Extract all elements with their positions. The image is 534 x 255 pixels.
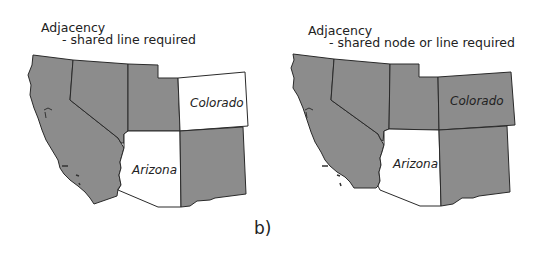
state-new-mexico <box>439 126 510 206</box>
state-utah <box>389 64 439 130</box>
states-map: Colorado Arizona <box>267 0 534 230</box>
label-colorado: Colorado <box>190 96 244 110</box>
label-colorado: Colorado <box>450 94 504 108</box>
label-arizona: Arizona <box>392 157 438 171</box>
state-utah <box>128 64 180 131</box>
states-map: Colorado Arizona <box>0 0 267 230</box>
panel-shared-node-or-line: Adjacency - shared node or line required… <box>267 0 534 230</box>
figure-caption: b) <box>254 218 271 238</box>
label-arizona: Arizona <box>131 163 177 177</box>
panel-shared-line: Adjacency - shared line required Colorad… <box>0 0 267 230</box>
state-new-mexico <box>180 127 246 207</box>
